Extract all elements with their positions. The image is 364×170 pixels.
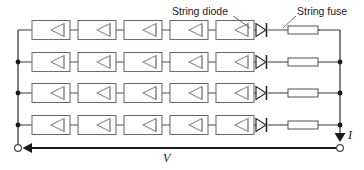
string-fuse — [288, 58, 318, 66]
junction-dot-left-4 — [16, 123, 21, 128]
pv-module — [32, 116, 70, 135]
junction-dot-left-3 — [16, 91, 21, 96]
pv-module — [124, 116, 162, 135]
pv-module — [170, 116, 208, 135]
circuit-svg — [0, 0, 364, 170]
pv-module — [124, 84, 162, 103]
current-arrow-head — [335, 133, 346, 142]
current-arrow — [335, 133, 346, 142]
junction-dot-left-2 — [16, 60, 21, 65]
junction-dot-right-3 — [338, 91, 343, 96]
junction-dot-right-2 — [338, 60, 343, 65]
left-bus — [16, 30, 32, 148]
terminal-positive — [337, 145, 344, 152]
string-3 — [32, 84, 318, 103]
string-1 — [32, 21, 320, 40]
pv-module — [216, 84, 254, 103]
pv-module — [170, 53, 208, 72]
pv-module — [216, 116, 254, 135]
pv-module — [78, 84, 116, 103]
pv-module — [32, 53, 70, 72]
pv-module — [78, 21, 116, 40]
string-2 — [32, 53, 318, 72]
terminal-negative — [15, 145, 22, 152]
voltage-arrow-head — [23, 143, 33, 153]
pv-module — [124, 53, 162, 72]
pv-module — [78, 116, 116, 135]
pv-module — [124, 21, 162, 40]
string-fuse — [288, 89, 318, 97]
pv-module — [78, 53, 116, 72]
voltage-arrow — [23, 143, 337, 153]
pv-module — [216, 53, 254, 72]
circuit-diagram: String diode String fuse I V — [0, 0, 364, 170]
pv-module — [32, 21, 70, 40]
pv-module — [32, 84, 70, 103]
string-4 — [32, 116, 318, 135]
right-bus — [318, 30, 342, 140]
pv-module — [216, 21, 254, 40]
pv-module — [170, 21, 208, 40]
string-diode — [256, 23, 267, 37]
string-fuse — [288, 26, 318, 34]
string-diode — [256, 118, 267, 132]
string-fuse — [288, 121, 318, 129]
pv-module — [170, 84, 208, 103]
string-diode — [256, 86, 267, 100]
junction-dot-right-4 — [338, 123, 343, 128]
string-diode — [256, 55, 267, 69]
